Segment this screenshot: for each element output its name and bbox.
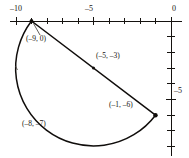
point-dot-b <box>92 67 95 70</box>
origin-label: 0 <box>172 5 176 13</box>
figure-canvas <box>0 0 189 158</box>
point-dot-c <box>153 113 157 117</box>
y-axis-label-neg5: –5 <box>174 87 182 95</box>
point-label-a: (–9, 0) <box>26 35 46 43</box>
coordinate-figure: –10 –5 0 –5 (–9, 0) (–5, –3) (–1, –6) (–… <box>0 0 189 158</box>
point-label-c: (–1, –6) <box>109 101 133 109</box>
point-label-d: (–8, –7) <box>22 120 46 128</box>
x-axis-label-neg10: –10 <box>10 5 22 13</box>
point-label-b: (–5, –3) <box>96 52 120 60</box>
point-dot-a <box>30 19 34 23</box>
x-axis-label-neg5: –5 <box>85 5 93 13</box>
